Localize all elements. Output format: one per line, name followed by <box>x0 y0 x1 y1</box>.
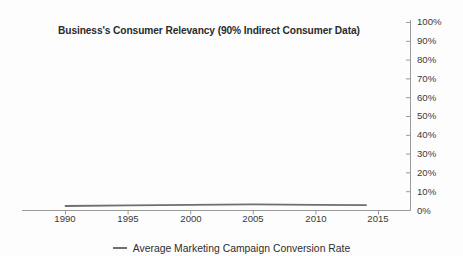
y-tick-label-30: 30% <box>417 149 436 159</box>
chart-legend: Average Marketing Campaign Conversion Ra… <box>0 240 463 254</box>
x-tick-label-2015: 2015 <box>358 213 398 224</box>
y-tick-label-20: 20% <box>417 168 436 178</box>
y-tick-label-60: 60% <box>417 93 436 103</box>
y-tick-label-70: 70% <box>417 74 436 84</box>
chart-figure: Business's Consumer Relevancy (90% Indir… <box>0 0 463 256</box>
x-tick-label-1990: 1990 <box>45 213 85 224</box>
legend-item-label: Average Marketing Campaign Conversion Ra… <box>133 243 351 254</box>
x-tick-label-1995: 1995 <box>108 213 148 224</box>
x-tick-label-2000: 2000 <box>171 213 211 224</box>
y-tick-label-0: 0% <box>417 206 431 216</box>
legend-item: Average Marketing Campaign Conversion Ra… <box>113 243 351 254</box>
y-tick-label-100: 100% <box>417 17 442 27</box>
y-tick-label-10: 10% <box>417 187 436 197</box>
y-tick-label-50: 50% <box>417 111 436 121</box>
y-tick-label-90: 90% <box>417 36 436 46</box>
y-axis-ticks <box>406 23 411 211</box>
legend-line-swatch-icon <box>113 247 127 249</box>
series-line-average-marketing-campaign-conversion-rate <box>66 204 367 206</box>
x-tick-label-2010: 2010 <box>296 213 336 224</box>
x-tick-label-2005: 2005 <box>233 213 273 224</box>
y-tick-label-80: 80% <box>417 55 436 65</box>
y-tick-label-40: 40% <box>417 130 436 140</box>
